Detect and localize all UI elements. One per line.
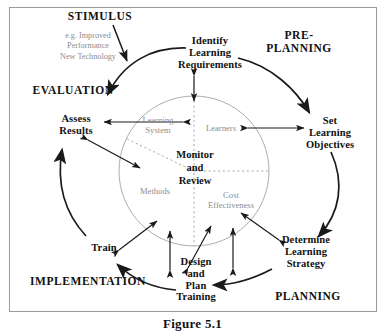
phase-heading-planning: PLANNING	[275, 290, 341, 303]
node-determine-learning-strategy: Determine Learning Strategy	[282, 234, 330, 269]
phase-heading-implementation: IMPLEMENTATION	[30, 275, 146, 288]
node-set-learning-objectives: Set Learning Objectives	[306, 115, 354, 150]
quadrant-label-learning-system: Learning System	[142, 115, 173, 135]
phase-heading-stimulus: STIMULUS	[68, 10, 132, 23]
node-assess-results: Assess Results	[59, 113, 92, 137]
quadrant-label-methods: Methods	[140, 186, 170, 196]
phase-heading-evaluation: EVALUATION	[32, 84, 113, 97]
node-design-and-plan-training: Design and Plan Training	[176, 256, 216, 303]
figure-root: STIMULUS PRE-PLANNING EVALUATION PLANNIN…	[0, 0, 385, 336]
node-train: Train	[91, 242, 116, 254]
stimulus-examples-note: e.g. Improved Performance New Technology	[60, 31, 116, 62]
phase-heading-pre-planning: PRE-PLANNING	[256, 29, 342, 55]
figure-caption: Figure 5.1	[0, 316, 385, 332]
circle-center-monitor-and-review: Monitor and Review	[176, 148, 213, 187]
quadrant-label-learners: Learners	[206, 123, 236, 133]
node-identify-learning-requirements: Identify Learning Requirements	[178, 35, 242, 70]
quadrant-label-cost-effectiveness: Cost Effectiveness	[208, 190, 254, 210]
